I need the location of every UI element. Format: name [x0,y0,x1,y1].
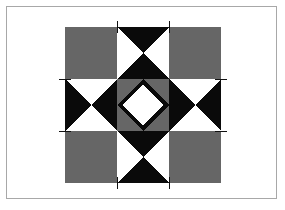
quilt-block-container [0,0,285,210]
corner-square-top-right [169,27,221,79]
screenshot-canvas [0,0,285,210]
corner-square-bottom-left [65,131,117,183]
corner-square-bottom-right [169,131,221,183]
quilt-block-svg [0,0,285,210]
corner-square-top-left [65,27,117,79]
center-star-unit [117,79,169,131]
